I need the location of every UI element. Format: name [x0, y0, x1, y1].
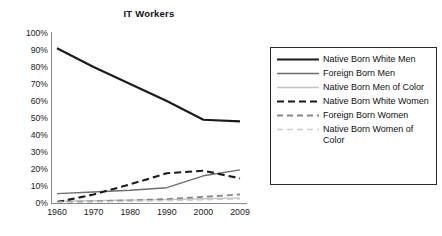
y-tick-label: 50% [6, 114, 48, 123]
legend-label: Native Born White Men [323, 53, 432, 65]
series-line [57, 48, 240, 121]
legend-swatch [276, 109, 320, 122]
y-tick-label: 80% [6, 63, 48, 72]
y-tick-label: 70% [6, 80, 48, 89]
x-tick-label: 2000 [183, 207, 223, 218]
legend-swatch [276, 123, 320, 136]
legend-label: Native Born Women of Color [323, 123, 432, 145]
series-line [57, 171, 240, 202]
plot-area [52, 33, 245, 203]
y-axis-tick-labels: 0%10%20%30%40%50%60%70%80%90%100% [4, 33, 48, 203]
legend-item[interactable]: Native Born Men of Color [276, 81, 432, 94]
legend-label: Foreign Born Men [323, 67, 432, 79]
x-tick-label: 1960 [37, 207, 77, 218]
y-tick-label: 40% [6, 131, 48, 140]
x-tick-label: 1970 [74, 207, 114, 218]
legend-swatch [276, 67, 320, 80]
legend-label: Native Born Men of Color [323, 81, 432, 93]
legend-item[interactable]: Native Born White Women [276, 95, 432, 108]
x-tick-label: 1990 [147, 207, 187, 218]
y-tick-label: 60% [6, 97, 48, 106]
legend-label: Foreign Born Women [323, 109, 432, 121]
chart-legend: Native Born White MenForeign Born MenNat… [270, 47, 437, 185]
y-tick-label: 100% [6, 29, 48, 38]
y-tick-label: 30% [6, 148, 48, 157]
legend-swatch [276, 95, 320, 108]
chart-figure: IT Workers 0%10%20%30%40%50%60%70%80%90%… [0, 0, 442, 236]
x-axis-tick-labels: 196019701980199020002009 [52, 207, 245, 221]
legend-item[interactable]: Native Born Women of Color [276, 123, 432, 145]
legend-swatch [276, 81, 320, 94]
series-lines [52, 33, 245, 203]
legend-item[interactable]: Native Born White Men [276, 53, 432, 66]
y-tick-label: 90% [6, 46, 48, 55]
legend-item[interactable]: Foreign Born Men [276, 67, 432, 80]
legend-swatch [276, 53, 320, 66]
x-tick-label: 1980 [110, 207, 150, 218]
chart-title: IT Workers [52, 8, 246, 19]
legend-item[interactable]: Foreign Born Women [276, 109, 432, 122]
y-tick-label: 10% [6, 182, 48, 191]
x-axis-line [51, 203, 247, 204]
y-tick-label: 20% [6, 165, 48, 174]
legend-label: Native Born White Women [323, 95, 432, 107]
x-tick-label: 2009 [220, 207, 260, 218]
